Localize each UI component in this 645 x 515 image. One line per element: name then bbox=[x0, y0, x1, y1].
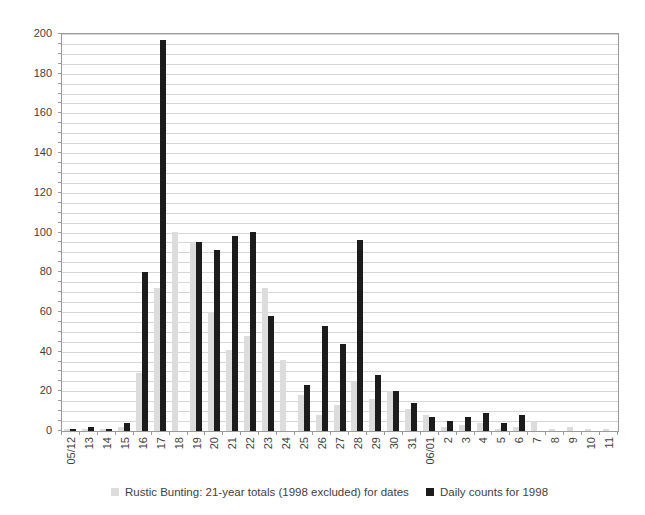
y-tick-15 bbox=[58, 400, 62, 401]
y-tick-90 bbox=[58, 251, 62, 252]
y-tick-80 bbox=[58, 271, 62, 272]
x-tick-8 bbox=[204, 431, 205, 435]
x-tick-11 bbox=[258, 431, 259, 435]
x-tick-0 bbox=[61, 431, 62, 435]
y-tick-30 bbox=[58, 370, 62, 371]
y-axis-label-20: 20 bbox=[2, 384, 52, 396]
gridline-y-140 bbox=[62, 153, 618, 154]
legend-item-daily-counts-1998: Daily counts for 1998 bbox=[426, 484, 548, 500]
bar-1998-27 bbox=[340, 344, 346, 431]
bar-1998-17 bbox=[160, 40, 166, 431]
y-tick-100 bbox=[58, 232, 62, 233]
bar-total-10 bbox=[585, 429, 591, 431]
y-axis-label-100: 100 bbox=[2, 226, 52, 238]
gridline-y-150 bbox=[62, 133, 618, 134]
x-tick-21 bbox=[438, 431, 439, 435]
gridline-y-175 bbox=[62, 84, 618, 85]
y-tick-105 bbox=[58, 222, 62, 223]
x-axis-label-21: 21 bbox=[226, 437, 238, 449]
y-tick-120 bbox=[58, 192, 62, 193]
x-tick-13 bbox=[294, 431, 295, 435]
x-axis-label-24: 24 bbox=[280, 437, 292, 449]
legend-swatch-daily-counts-1998 bbox=[426, 488, 434, 496]
x-tick-18 bbox=[384, 431, 385, 435]
y-tick-70 bbox=[58, 291, 62, 292]
x-tick-1 bbox=[79, 431, 80, 435]
y-tick-175 bbox=[58, 83, 62, 84]
gridline-y-125 bbox=[62, 183, 618, 184]
gridline-y-115 bbox=[62, 203, 618, 204]
x-tick-15 bbox=[330, 431, 331, 435]
y-tick-140 bbox=[58, 152, 62, 153]
gridline-y-145 bbox=[62, 143, 618, 144]
legend-label-21-year-totals: Rustic Bunting: 21-year totals (1998 exc… bbox=[125, 486, 409, 498]
y-tick-185 bbox=[58, 63, 62, 64]
y-tick-200 bbox=[58, 33, 62, 34]
bar-1998-6 bbox=[519, 415, 525, 431]
y-tick-45 bbox=[58, 341, 62, 342]
y-axis-label-140: 140 bbox=[2, 146, 52, 158]
bar-total-18 bbox=[172, 232, 178, 431]
bar-1998-30 bbox=[393, 391, 399, 431]
bar-1998-2 bbox=[447, 421, 453, 431]
y-tick-10 bbox=[58, 410, 62, 411]
bar-1998-19 bbox=[196, 242, 202, 431]
x-axis-label-11: 11 bbox=[603, 437, 615, 448]
y-tick-25 bbox=[58, 380, 62, 381]
x-axis-label-20: 20 bbox=[208, 437, 220, 449]
x-axis-label-06/01: 06/01 bbox=[424, 437, 436, 465]
x-tick-23 bbox=[474, 431, 475, 435]
bar-1998-06/01 bbox=[429, 417, 435, 431]
y-tick-110 bbox=[58, 212, 62, 213]
x-axis-label-28: 28 bbox=[352, 437, 364, 449]
x-tick-20 bbox=[420, 431, 421, 435]
bar-1998-25 bbox=[304, 385, 310, 431]
bar-1998-14 bbox=[106, 429, 112, 431]
x-axis-label-05/12: 05/12 bbox=[65, 437, 77, 465]
x-tick-10 bbox=[240, 431, 241, 435]
y-tick-50 bbox=[58, 331, 62, 332]
x-axis-label-25: 25 bbox=[298, 437, 310, 449]
gridline-y-135 bbox=[62, 163, 618, 164]
x-axis-label-6: 6 bbox=[513, 437, 525, 443]
gridline-y-110 bbox=[62, 213, 618, 214]
x-axis-label-23: 23 bbox=[262, 437, 274, 449]
x-tick-31 bbox=[617, 431, 618, 435]
legend-swatch-21-year-totals bbox=[111, 488, 119, 496]
y-tick-115 bbox=[58, 202, 62, 203]
y-tick-165 bbox=[58, 102, 62, 103]
x-tick-25 bbox=[509, 431, 510, 435]
x-tick-28 bbox=[563, 431, 564, 435]
x-tick-16 bbox=[348, 431, 349, 435]
bar-1998-28 bbox=[357, 240, 363, 431]
y-axis-label-160: 160 bbox=[2, 106, 52, 118]
x-axis-label-5: 5 bbox=[495, 437, 507, 443]
x-tick-7 bbox=[187, 431, 188, 435]
y-tick-135 bbox=[58, 162, 62, 163]
y-axis-label-40: 40 bbox=[2, 345, 52, 357]
bar-1998-3 bbox=[465, 417, 471, 431]
y-tick-20 bbox=[58, 390, 62, 391]
gridline-y-190 bbox=[62, 54, 618, 55]
x-axis-label-10: 10 bbox=[585, 437, 597, 449]
gridline-y-85 bbox=[62, 262, 618, 263]
x-tick-4 bbox=[133, 431, 134, 435]
x-tick-19 bbox=[402, 431, 403, 435]
bar-1998-16 bbox=[142, 272, 148, 431]
y-tick-5 bbox=[58, 420, 62, 421]
bar-1998-15 bbox=[124, 423, 130, 431]
legend-label-daily-counts-1998: Daily counts for 1998 bbox=[440, 486, 548, 498]
chart-canvas: 020406080100120140160180200 05/121314151… bbox=[0, 0, 645, 515]
gridline-y-130 bbox=[62, 173, 618, 174]
y-axis-label-200: 200 bbox=[2, 27, 52, 39]
gridline-y-185 bbox=[62, 64, 618, 65]
bar-1998-26 bbox=[322, 326, 328, 431]
gridline-y-105 bbox=[62, 223, 618, 224]
y-tick-190 bbox=[58, 53, 62, 54]
chart-legend: Rustic Bunting: 21-year totals (1998 exc… bbox=[0, 484, 645, 500]
x-tick-30 bbox=[599, 431, 600, 435]
x-axis-label-18: 18 bbox=[173, 437, 185, 449]
bar-1998-22 bbox=[250, 232, 256, 431]
x-axis-label-9: 9 bbox=[567, 437, 579, 443]
gridline-y-160 bbox=[62, 113, 618, 114]
